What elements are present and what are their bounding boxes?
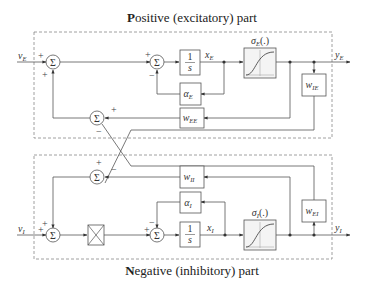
svg-text:+: + bbox=[38, 224, 44, 235]
svg-text:−: − bbox=[149, 70, 155, 81]
svg-text:Σ: Σ bbox=[94, 172, 100, 183]
sum-node-1: Σ bbox=[46, 55, 60, 69]
output-yI-label: yI bbox=[334, 222, 342, 234]
svg-text:Σ: Σ bbox=[50, 57, 56, 68]
sigma-I-label: σI(.) bbox=[252, 207, 268, 219]
svg-text:−: − bbox=[96, 126, 102, 137]
svg-text:Σ: Σ bbox=[94, 113, 100, 124]
w-IE-block: wIE bbox=[302, 74, 326, 96]
neural-population-block-diagram: Positive (excitatory) part Negative (inh… bbox=[0, 0, 368, 294]
sign-labels: + + + − + − + − + + − + bbox=[38, 49, 155, 235]
w-EI-block: wEI bbox=[302, 200, 326, 222]
w-EE-block: wEE bbox=[180, 108, 204, 128]
svg-text:+: + bbox=[145, 49, 151, 60]
integrator-block-I: 1 s bbox=[180, 222, 200, 247]
negative-part-title: Negative (inhibitory) part bbox=[125, 263, 259, 278]
sum-node-2: Σ bbox=[150, 55, 164, 69]
sigmoid-I-block bbox=[244, 220, 276, 250]
svg-text:Σ: Σ bbox=[50, 230, 56, 241]
sum-node-5: Σ bbox=[46, 228, 60, 242]
svg-text:s: s bbox=[188, 62, 192, 73]
svg-text:−: − bbox=[149, 217, 155, 228]
svg-text:−: − bbox=[111, 164, 117, 175]
svg-text:1: 1 bbox=[188, 51, 193, 62]
svg-text:Σ: Σ bbox=[154, 230, 160, 241]
sigmoid-E-block bbox=[244, 48, 276, 78]
alpha-E-block: αE bbox=[180, 83, 201, 105]
cross-delay-block bbox=[88, 225, 104, 245]
sum-node-6: Σ bbox=[150, 228, 164, 242]
w-II-block: wII bbox=[180, 166, 204, 188]
alpha-I-block: αI bbox=[180, 192, 201, 213]
svg-text:1: 1 bbox=[188, 223, 193, 234]
svg-text:+: + bbox=[42, 69, 48, 80]
svg-text:+: + bbox=[111, 104, 117, 115]
sum-node-3: Σ bbox=[90, 111, 104, 125]
svg-text:+: + bbox=[96, 157, 102, 168]
sigma-E-label: σE(.) bbox=[251, 35, 269, 47]
integrator-block-E: 1 s bbox=[180, 50, 200, 75]
svg-text:s: s bbox=[188, 234, 192, 245]
input-vI-label: vI bbox=[18, 223, 25, 235]
state-xE-label: xE bbox=[204, 49, 213, 61]
svg-text:Σ: Σ bbox=[154, 57, 160, 68]
state-xI-label: xI bbox=[206, 222, 214, 234]
svg-text:+: + bbox=[38, 50, 44, 61]
input-vE-label: vE bbox=[18, 50, 26, 62]
svg-text:+: + bbox=[144, 224, 150, 235]
sum-node-4: Σ bbox=[90, 170, 104, 184]
output-yE-label: yE bbox=[334, 49, 343, 61]
positive-part-title: Positive (excitatory) part bbox=[127, 10, 257, 25]
